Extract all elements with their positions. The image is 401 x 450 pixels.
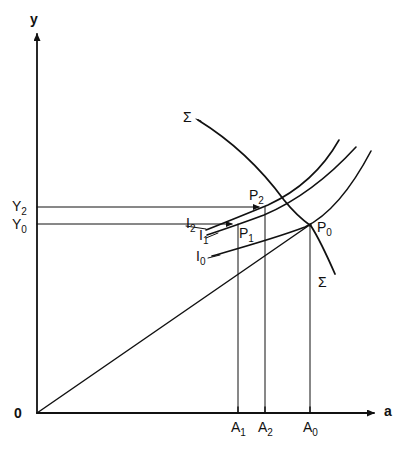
diagram-canvas: y a 0 Y2 Y0 A1 A2 A0 P2 P1 P0 I2 I1 I0 Σ… [0, 0, 401, 450]
x-tick-a0-sub: 0 [312, 427, 318, 438]
point-p1-sub: 1 [248, 233, 254, 244]
origin-label: 0 [14, 406, 22, 420]
y-tick-y0-base: Y [12, 216, 21, 232]
point-label-p0: P0 [317, 220, 332, 238]
curve-label-i1: I1 [199, 228, 208, 246]
x-tick-a0-base: A [303, 419, 312, 435]
y-axis-label: y [30, 12, 38, 26]
curve-label-sigma-lower: Σ [318, 275, 327, 289]
x-tick-label-a1: A1 [231, 420, 246, 438]
point-p0-sub: 0 [326, 227, 332, 238]
point-p1-base: P [239, 225, 248, 241]
x-tick-a2-sub: 2 [267, 427, 273, 438]
y-tick-label-y2: Y2 [12, 199, 27, 217]
curve-i0-sub: 0 [200, 256, 206, 267]
y-tick-y2-sub: 2 [21, 206, 27, 217]
point-marker-p0 [308, 223, 311, 226]
x-tick-label-a2: A2 [258, 420, 273, 438]
indifference-curve-i1 [207, 147, 356, 235]
x-tick-a1-base: A [231, 419, 240, 435]
x-tick-a2-base: A [258, 419, 267, 435]
curve-label-sigma-upper: Σ [183, 110, 192, 124]
point-p2-base: P [249, 187, 258, 203]
curve-label-i0: I0 [196, 249, 205, 267]
diagram-svg [0, 0, 401, 450]
curve-i1-sub: 1 [203, 235, 209, 246]
curve-label-i2: I2 [186, 216, 195, 234]
y-tick-label-y0: Y0 [12, 217, 27, 235]
x-tick-label-a0: A0 [303, 420, 318, 438]
ray-from-origin [37, 224, 311, 413]
point-label-p2: P2 [249, 188, 264, 206]
y-tick-y0-sub: 0 [21, 224, 27, 235]
indifference-curve-i0 [212, 151, 371, 256]
point-p2-sub: 2 [258, 195, 264, 206]
sigma-curve [198, 120, 335, 274]
y-tick-y2-base: Y [12, 198, 21, 214]
curve-i2-sub: 2 [190, 223, 196, 234]
x-tick-a1-sub: 1 [240, 427, 246, 438]
x-axis-label: a [384, 404, 392, 418]
point-p0-base: P [317, 219, 326, 235]
point-label-p1: P1 [239, 226, 254, 244]
